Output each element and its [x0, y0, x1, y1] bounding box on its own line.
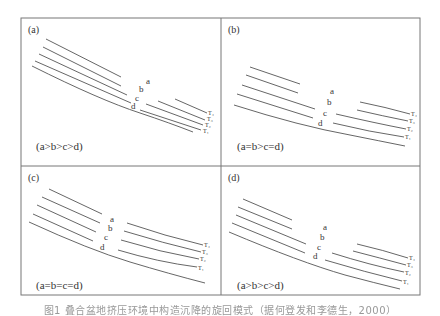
layer-label-c: c — [135, 93, 139, 103]
figure-caption: 图1 叠合盆地挤压环境中构造沉降的旋回模式（据何登发和李德生，2000） — [0, 302, 440, 316]
panel-condition: (a=b=c=d) — [36, 279, 83, 292]
panel-a: (a) a b c d T₄ T₃ T₂ T₁ (a>b>c>d) — [28, 24, 214, 153]
panel-condition: (a>b>c>d) — [237, 279, 284, 292]
layer-label-c: c — [323, 108, 327, 118]
panel-label: (d) — [228, 172, 240, 184]
panel-d: (d) a b c d T₄ T₃ T₂ T₁ (a>b>c>d) — [228, 172, 415, 292]
panel-condition: (a=b>c=d) — [237, 140, 284, 153]
panel-c: (c) a b c d T₄ T₃ T₂ T₁ (a=b=c=d) — [28, 172, 210, 292]
t-label-1: T₁ — [403, 279, 409, 285]
layer-label-d: d — [318, 118, 323, 128]
panel-b: (b) a b c d T₄ T₃ T₂ T₁ (a=b>c=d) — [228, 24, 417, 153]
panel-label: (b) — [228, 24, 240, 36]
layer-label-b: b — [108, 223, 113, 233]
layer-label-d: d — [313, 251, 318, 261]
layer-label-b: b — [139, 84, 144, 94]
t-label-4: T₄ — [204, 242, 210, 248]
t-label-3: T₃ — [407, 262, 413, 268]
t-label-3: T₃ — [409, 118, 415, 124]
layer-label-c: c — [317, 242, 321, 252]
t-label-2: T₂ — [407, 126, 413, 132]
t-label-2: T₂ — [200, 256, 206, 262]
layer-label-a: a — [323, 222, 327, 232]
layer-label-d: d — [100, 242, 105, 252]
layer-label-a: a — [146, 76, 150, 86]
layer-label-a: a — [330, 86, 334, 96]
t-label-4: T₄ — [411, 111, 417, 117]
t-label-3: T₃ — [202, 249, 208, 255]
t-label-1: T₁ — [198, 265, 204, 271]
layer-label-d: d — [131, 101, 136, 111]
layer-label-c: c — [104, 232, 108, 242]
panel-label: (c) — [28, 172, 39, 184]
panel-label: (a) — [28, 24, 39, 36]
layer-label-b: b — [320, 232, 325, 242]
t-label-1: T₁ — [405, 134, 411, 140]
t-label-2: T₂ — [405, 270, 411, 276]
t-label-1: T₁ — [203, 128, 209, 134]
layer-label-b: b — [327, 97, 332, 107]
diagram-figure: (a) a b c d T₄ T₃ T₂ T₁ (a>b>c>d) (b) a … — [0, 0, 440, 316]
t-label-4: T₄ — [409, 255, 415, 261]
panel-condition: (a>b>c>d) — [36, 140, 83, 153]
